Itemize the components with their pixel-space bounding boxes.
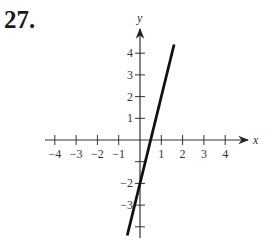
x-tick-label: −1 — [112, 147, 125, 161]
y-tick-label: −2 — [120, 176, 133, 190]
x-tick-label: 3 — [201, 147, 207, 161]
y-tick-label: 4 — [127, 46, 133, 60]
y-tick-label: 1 — [127, 111, 133, 125]
coordinate-graph: −4−3−2−11234 4321−2−3 x y — [0, 0, 278, 242]
x-tick-label: 2 — [180, 147, 186, 161]
x-tick-label: −3 — [70, 147, 83, 161]
x-tick-label: −2 — [91, 147, 104, 161]
y-tick-label: 2 — [127, 90, 133, 104]
x-axis-ticks: −4−3−2−11234 — [48, 135, 228, 161]
x-tick-label: −4 — [48, 147, 61, 161]
x-tick-label: 1 — [158, 147, 164, 161]
y-tick-label: 3 — [127, 68, 133, 82]
x-axis-label: x — [252, 133, 259, 147]
y-axis-ticks: 4321−2−3 — [120, 46, 145, 227]
y-axis-label: y — [136, 11, 143, 25]
y-tick-label: −3 — [120, 198, 133, 212]
x-tick-label: 4 — [222, 147, 228, 161]
